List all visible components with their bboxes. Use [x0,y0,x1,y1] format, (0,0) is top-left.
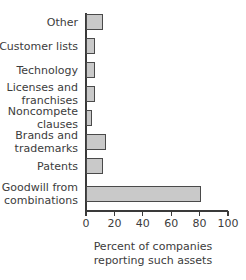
x-tick-label-80: 80 [185,217,215,230]
bar-chart: Other Customer lists Technology Licenses… [0,0,246,280]
category-label-noncompete-clauses: Noncompete clauses [0,106,78,131]
plot-area: Other Customer lists Technology Licenses… [0,0,246,280]
x-tick-100 [227,211,228,216]
bar-customer-lists [86,38,95,54]
bar-brands-and-trademarks [86,134,106,150]
bar-other [86,14,103,30]
x-tick-label-100: 100 [213,217,243,230]
category-label-other: Other [0,17,78,30]
bar-licenses-and-franchises [86,86,95,102]
bar-technology [86,62,95,78]
x-tick-0 [85,211,86,216]
category-label-goodwill-from-combinations: Goodwill from combinations [0,182,78,207]
bar-goodwill-from-combinations [86,186,201,202]
bar-noncompete-clauses [86,110,92,126]
x-tick-80 [199,211,200,216]
x-tick-label-60: 60 [156,217,186,230]
x-tick-40 [142,211,143,216]
x-tick-label-40: 40 [128,217,158,230]
category-label-patents: Patents [0,161,78,174]
x-tick-label-20: 20 [99,217,129,230]
category-label-brands-and-trademarks: Brands and trademarks [0,130,78,155]
x-tick-label-0: 0 [71,217,101,230]
bar-patents [86,158,103,174]
x-tick-60 [171,211,172,216]
x-axis-title: Percent of companies reporting such asse… [60,240,246,268]
value-axis-line [85,210,228,212]
x-tick-20 [114,211,115,216]
category-label-licenses-and-franchises: Licenses and franchises [0,82,78,107]
category-label-technology: Technology [0,65,78,78]
category-label-customer-lists: Customer lists [0,41,78,54]
